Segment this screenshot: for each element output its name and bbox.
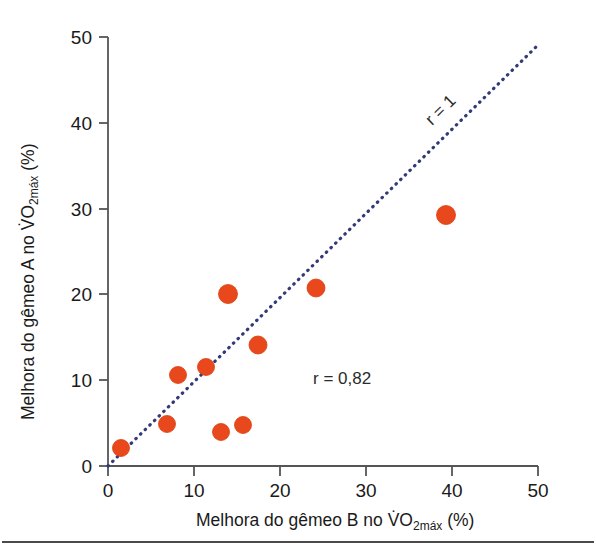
data-point [219, 285, 238, 304]
y-tick-label-40: 40 [71, 113, 92, 134]
identity-line-label: r = 1 [422, 91, 460, 129]
identity-reference-line [108, 47, 536, 466]
x-tick-label-50: 50 [527, 480, 548, 501]
x-axis-ticks [108, 466, 538, 476]
data-point [170, 367, 187, 384]
data-point [249, 336, 267, 354]
correlation-label: r = 0,82 [313, 369, 371, 388]
y-tick-label-50: 50 [71, 27, 92, 48]
x-tick-label-40: 40 [441, 480, 462, 501]
x-axis-title-main: Melhora do gêmeo B no V [196, 510, 400, 530]
y-axis-ticks [99, 37, 108, 466]
y-axis-title: Melhora do gêmeo A no V̇O2máx (%) [18, 144, 41, 420]
svg-text:Melhora do gêmeo B no V̇O2máx: Melhora do gêmeo B no V̇O2máx (%) [196, 510, 474, 533]
y-axis-title-sub: O [18, 205, 38, 219]
data-point [213, 424, 230, 441]
y-tick-label-0: 0 [81, 456, 92, 477]
bottom-divider [2, 541, 594, 543]
data-point [159, 416, 176, 433]
data-point [113, 440, 130, 457]
data-point [437, 206, 456, 225]
scatter-plot-svg: 50 40 30 20 10 0 0 10 20 30 40 50 r = 1 … [0, 0, 596, 557]
data-point-group [113, 206, 456, 457]
y-tick-label-20: 20 [71, 284, 92, 305]
x-tick-label-30: 30 [355, 480, 376, 501]
data-point [235, 417, 252, 434]
y-tick-label-10: 10 [71, 370, 92, 391]
y-axis-title-main: Melhora do gêmeo A no V [18, 218, 38, 420]
scatter-figure: 50 40 30 20 10 0 0 10 20 30 40 50 r = 1 … [0, 0, 596, 557]
x-tick-label-0: 0 [103, 480, 114, 501]
x-axis-title: Melhora do gêmeo B no V̇O2máx (%) [196, 510, 474, 533]
x-axis-title-sub: O [399, 510, 413, 530]
svg-text:Melhora do gêmeo A no V̇O2máx: Melhora do gêmeo A no V̇O2máx (%) [18, 144, 41, 420]
x-tick-label-10: 10 [183, 480, 204, 501]
y-axis-title-tail: (%) [18, 144, 38, 176]
x-axis-title-tail: (%) [442, 510, 474, 530]
data-point [307, 279, 325, 297]
x-tick-label-20: 20 [269, 480, 290, 501]
y-tick-label-30: 30 [71, 199, 92, 220]
x-axis-title-sub2: 2máx [413, 519, 442, 533]
data-point [198, 359, 215, 376]
y-axis-title-sub2: 2máx [27, 176, 41, 205]
